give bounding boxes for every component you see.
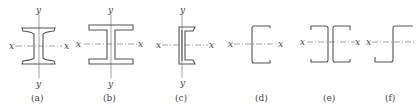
x-label-left: x	[228, 39, 233, 49]
y-label-bottom: y	[179, 78, 186, 88]
cold-channel-shape	[252, 26, 270, 63]
x-label-left: x	[300, 37, 305, 47]
x-label-right: x	[209, 40, 214, 50]
x-label-left: x	[156, 40, 161, 50]
caption-f: (f)	[385, 93, 395, 103]
y-label-top: y	[107, 5, 114, 15]
x-label-left: x	[76, 39, 81, 49]
caption-b: (b)	[103, 93, 116, 103]
x-label-right: x	[64, 41, 69, 51]
x-label-right: x	[138, 39, 143, 49]
panel-b: y x x y (b)	[76, 5, 143, 103]
caption-d: (d)	[255, 93, 268, 103]
panel-a: y x x y (a)	[9, 5, 69, 103]
caption-a: (a)	[31, 93, 43, 103]
y-label-top: y	[179, 5, 186, 15]
channel-shape	[179, 27, 195, 64]
panel-c: y x x y (c)	[156, 5, 214, 103]
panel-f: x (f)	[366, 26, 416, 103]
y-label-top: y	[35, 5, 42, 15]
caption-e: (e)	[323, 93, 335, 103]
panel-d: x x (d)	[228, 26, 283, 103]
x-label-left: x	[366, 37, 371, 47]
right-channel-shape	[333, 26, 350, 62]
y-label-bottom: y	[35, 79, 42, 89]
x-label-right: x	[278, 39, 283, 49]
x-label-left: x	[9, 41, 14, 51]
section-diagram: y x x y (a) y x x y (b) y x x y (c) x x …	[0, 0, 416, 108]
z-section-shape	[375, 26, 413, 62]
x-label-right: x	[355, 37, 360, 47]
panel-e: x x (e)	[300, 26, 360, 103]
caption-c: (c)	[175, 93, 187, 103]
y-label-bottom: y	[107, 79, 114, 89]
left-channel-shape	[311, 26, 328, 62]
